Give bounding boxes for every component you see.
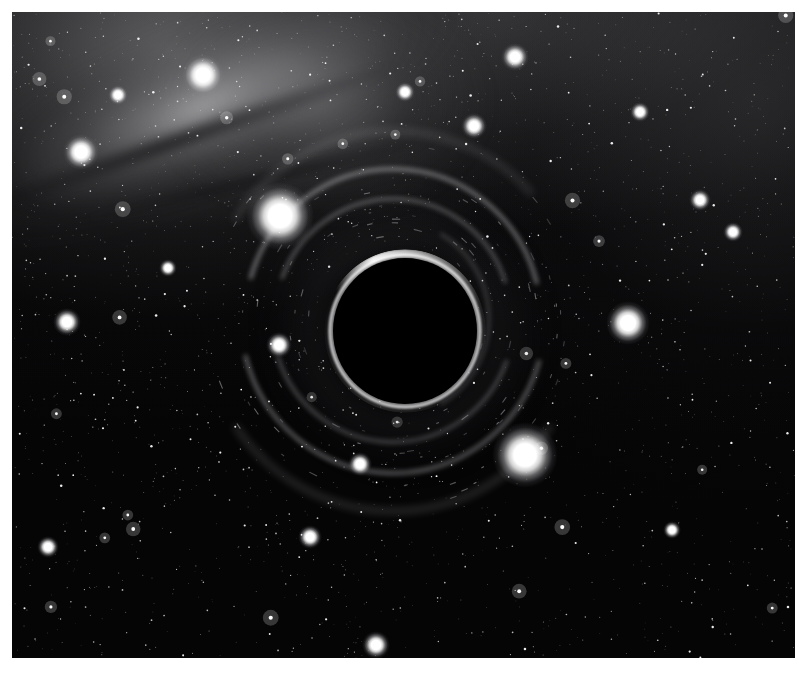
black-hole-shadow (333, 258, 477, 404)
page-root (0, 0, 810, 674)
astronomy-image (12, 12, 795, 658)
